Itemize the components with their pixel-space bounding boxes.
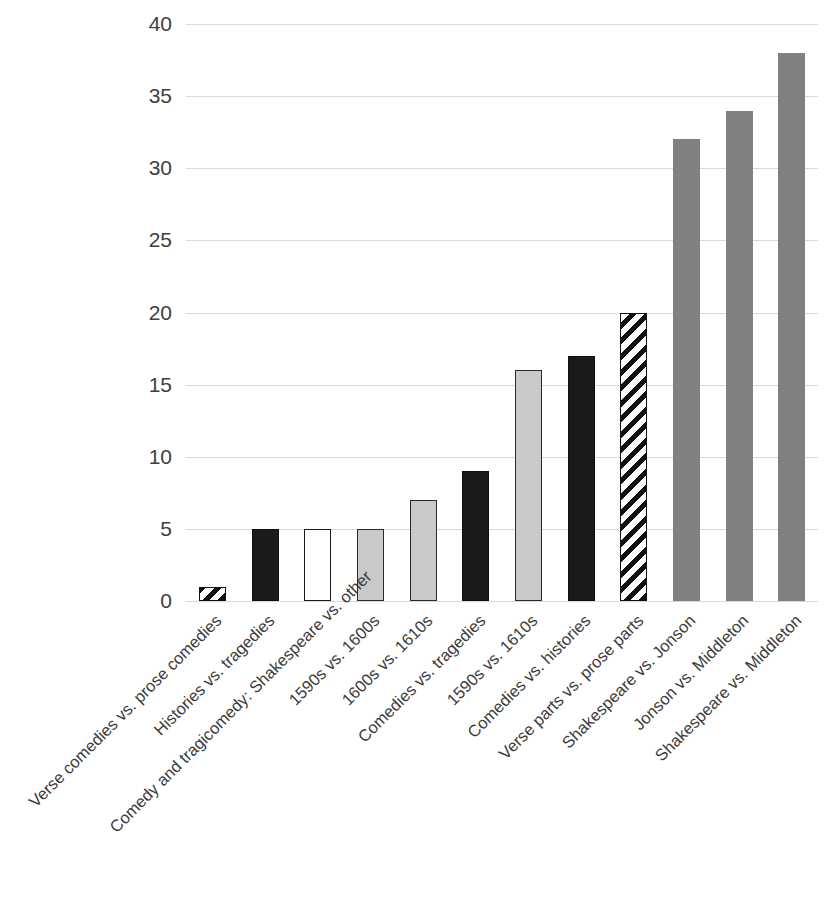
bar[interactable] bbox=[778, 53, 805, 601]
bar[interactable] bbox=[252, 529, 279, 601]
gridline-40 bbox=[186, 24, 818, 25]
bar[interactable] bbox=[568, 356, 595, 601]
y-tick-label-10: 10 bbox=[128, 446, 172, 467]
gridline-5 bbox=[186, 529, 818, 530]
y-tick-label-25: 25 bbox=[128, 229, 172, 250]
gridline-15 bbox=[186, 385, 818, 386]
bar[interactable] bbox=[515, 370, 542, 601]
y-tick-label-15: 15 bbox=[128, 374, 172, 395]
gridline-20 bbox=[186, 313, 818, 314]
y-tick-label-0: 0 bbox=[128, 590, 172, 611]
gridline-25 bbox=[186, 240, 818, 241]
y-axis: 4035302520151050 bbox=[120, 24, 172, 601]
bar[interactable] bbox=[410, 500, 437, 601]
gridline-10 bbox=[186, 457, 818, 458]
y-tick-label-35: 35 bbox=[128, 85, 172, 106]
gridline-35 bbox=[186, 96, 818, 97]
bar[interactable] bbox=[199, 587, 226, 601]
bar[interactable] bbox=[726, 111, 753, 601]
bar[interactable] bbox=[304, 529, 331, 601]
plot-area bbox=[186, 24, 818, 601]
bar[interactable] bbox=[673, 139, 700, 601]
bar[interactable] bbox=[462, 471, 489, 601]
bar[interactable] bbox=[620, 313, 647, 602]
y-tick-label-20: 20 bbox=[128, 302, 172, 323]
bar-chart: 4035302520151050 Verse comedies vs. pros… bbox=[0, 0, 828, 915]
y-tick-label-5: 5 bbox=[128, 518, 172, 539]
gridline-30 bbox=[186, 168, 818, 169]
gridline-0 bbox=[186, 601, 818, 602]
y-tick-label-30: 30 bbox=[128, 157, 172, 178]
y-tick-label-40: 40 bbox=[128, 13, 172, 34]
